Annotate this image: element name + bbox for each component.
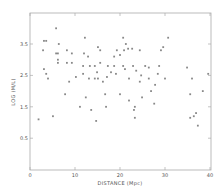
data-point [55,53,57,55]
y-tick-label: 1.5 [20,104,28,110]
data-point [66,49,68,51]
data-point [134,106,136,108]
data-point [150,90,152,92]
data-point [57,59,59,61]
data-point [144,65,146,67]
y-axis-title: LOG (M/L) [10,78,16,105]
data-point [71,62,73,64]
data-point [99,49,101,51]
data-point [55,27,57,29]
y-tick-label: 0.5 [20,135,28,141]
x-tick-label: 30 [162,172,168,178]
data-point [110,71,112,73]
data-point [42,49,44,51]
data-point [83,53,85,55]
data-point [82,73,84,75]
data-point [88,78,90,80]
data-point [107,65,109,67]
data-point [97,46,99,48]
data-point [186,67,188,69]
data-point [141,96,143,98]
data-point [128,100,130,102]
data-point [94,65,96,67]
plot-frame [30,13,211,170]
data-point [124,68,126,70]
data-point [94,78,96,80]
data-point [193,115,195,117]
data-point [119,54,121,56]
data-point [134,117,136,119]
scatter-chart: 010203040 0.51.52.53.5 DISTANCE (Mpc) LO… [0,0,224,192]
data-point [96,71,98,73]
data-point [119,93,121,95]
data-point [139,49,141,51]
data-points [38,27,209,126]
data-point [58,43,60,45]
data-point [57,62,59,64]
data-point [89,65,91,67]
data-point [125,43,127,45]
x-tick-label: 40 [207,172,213,178]
x-axis-title: DISTANCE (Mpc) [98,180,143,187]
data-point [153,103,155,105]
data-point [116,49,118,51]
data-point [38,118,40,120]
data-point [106,76,108,78]
data-point [157,73,159,75]
data-point [195,112,197,114]
data-point [135,70,137,72]
data-point [99,62,101,64]
data-point [207,73,209,75]
data-point [122,65,124,67]
data-point [85,96,87,98]
y-tick-label: 3.5 [20,41,28,47]
data-point [84,37,86,39]
data-point [43,40,45,42]
data-point [167,37,169,39]
data-point [128,78,130,80]
data-point [189,117,191,119]
data-point [64,93,66,95]
data-point [202,90,204,92]
data-point [154,84,156,86]
data-point [45,40,47,42]
data-point [122,37,124,39]
data-point [75,76,77,78]
data-point [139,81,141,83]
data-point [104,93,106,95]
data-point [95,120,97,122]
x-tick-label: 10 [72,172,78,178]
data-point [140,75,142,77]
data-point [148,67,150,69]
data-point [164,78,166,80]
data-point [87,56,89,58]
data-point [66,62,68,64]
data-point [43,68,45,70]
data-point [68,81,70,83]
data-point [131,48,133,50]
data-point [115,73,117,75]
data-point [148,78,150,80]
y-axis-ticks: 0.51.52.53.5 [20,41,211,141]
data-point [47,78,49,80]
data-point [162,46,164,48]
data-point [45,73,47,75]
data-point [113,56,115,58]
data-point [57,53,59,55]
data-point [113,65,115,67]
data-point [191,78,193,80]
x-tick-label: 0 [28,172,31,178]
data-point [105,106,107,108]
data-point [189,93,191,95]
data-point [133,109,135,111]
data-point [127,48,129,50]
x-tick-label: 20 [117,172,123,178]
data-point [132,65,134,67]
data-point [158,65,160,67]
data-point [52,115,54,117]
data-point [97,78,99,80]
data-point [79,106,81,108]
data-point [123,49,125,51]
x-axis-ticks: 010203040 [28,13,213,178]
data-point [71,53,73,55]
